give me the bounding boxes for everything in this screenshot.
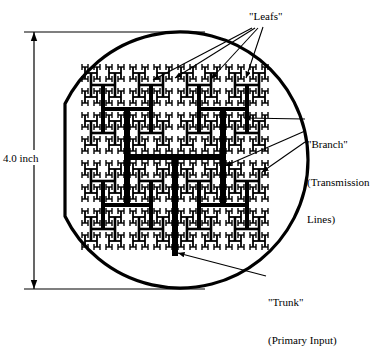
callout-label-branch-line2: (Transmission bbox=[307, 176, 370, 189]
dimension-label: 4.0 inch bbox=[3, 152, 38, 165]
callout-label-branch: "Branch" (Transmission Lines) bbox=[307, 113, 370, 251]
leader-branch-2 bbox=[225, 131, 305, 166]
callout-label-trunk: "Trunk" (Primary Input) bbox=[268, 271, 337, 351]
callout-label-branch-line1: "Branch" bbox=[307, 138, 370, 151]
dimension-arrowhead-bottom bbox=[31, 280, 37, 289]
dimension-arrowhead-top bbox=[31, 32, 37, 41]
htree-transmission-lines bbox=[82, 64, 268, 256]
callout-label-trunk-line1: "Trunk" bbox=[268, 296, 337, 309]
callout-label-trunk-line2: (Primary Input) bbox=[268, 334, 337, 347]
callout-label-leafs: "Leafs" bbox=[249, 10, 282, 23]
callout-label-branch-line3: Lines) bbox=[307, 213, 370, 226]
